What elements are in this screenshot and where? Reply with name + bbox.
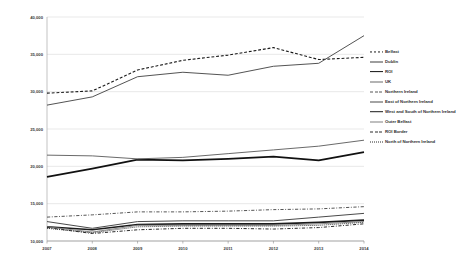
legend-item-label: Outer Belfast [385, 118, 411, 124]
legend-line-swatch [370, 108, 383, 115]
legend-line-swatch [370, 128, 383, 135]
y-axis-tick-label: 35,000 [30, 52, 43, 57]
legend-line-swatch [370, 58, 383, 65]
legend-line-swatch [370, 78, 383, 85]
series-line-dublin [47, 36, 364, 105]
legend-item[interactable]: Northern Ireland [370, 88, 458, 95]
y-axis-tick-label: 20,000 [30, 164, 43, 169]
y-axis-tick-label: 25,000 [30, 127, 43, 132]
legend-item[interactable]: West and South of Northern Ireland [370, 108, 458, 115]
y-axis-tick-label: 10,000 [30, 239, 43, 244]
legend-line-swatch [370, 138, 383, 145]
y-axis-tick-label: 30,000 [30, 89, 43, 94]
legend-item[interactable]: Belfast [370, 48, 458, 55]
x-axis-tick-label: 2014 [359, 246, 369, 251]
series-line-northern-ireland [47, 207, 364, 217]
x-axis-tick-label: 2008 [88, 246, 98, 251]
legend-item[interactable]: UK [370, 78, 458, 85]
legend-line-swatch [370, 48, 383, 55]
x-axis-tick-label: 2009 [133, 246, 143, 251]
legend-line-swatch [370, 118, 383, 125]
legend-item-label: West and South of Northern Ireland [385, 108, 456, 114]
x-axis-tick-label: 2013 [314, 246, 324, 251]
legend-item-label: East of Northern Ireland [385, 98, 433, 104]
legend-line-swatch [370, 68, 383, 75]
legend-item-label: ROI [385, 68, 393, 74]
legend-item-label: North of Northern Ireland [385, 138, 435, 144]
legend-item-label: Belfast [385, 48, 399, 54]
legend-item[interactable]: East of Northern Ireland [370, 98, 458, 105]
y-axis-tick-label: 40,000 [30, 15, 43, 20]
line-chart: 40,00035,00030,00025,00020,00015,00010,0… [0, 0, 458, 269]
y-axis-tick-label: 15,000 [30, 201, 43, 206]
x-axis-tick-label: 2007 [42, 246, 52, 251]
legend-item-label: Northern Ireland [385, 88, 418, 94]
x-axis-tick-label: 2011 [224, 246, 234, 251]
legend-item[interactable]: Dublin [370, 58, 458, 65]
x-axis-tick-label: 2010 [178, 246, 188, 251]
series-line-east-of-northern-ireland [47, 213, 364, 228]
legend-line-swatch [370, 98, 383, 105]
legend-item[interactable]: Outer Belfast [370, 118, 458, 125]
legend-item-label: ROI Border [385, 128, 407, 134]
legend-item[interactable]: ROI Border [370, 128, 458, 135]
chart-legend: BelfastDublinROIUKNorthern IrelandEast o… [370, 48, 458, 148]
legend-item[interactable]: ROI [370, 68, 458, 75]
legend-item[interactable]: North of Northern Ireland [370, 138, 458, 145]
x-axis-tick-label: 2012 [269, 246, 279, 251]
legend-item-label: UK [385, 78, 391, 84]
legend-item-label: Dublin [385, 58, 398, 64]
legend-line-swatch [370, 88, 383, 95]
series-line-uk [47, 140, 364, 159]
